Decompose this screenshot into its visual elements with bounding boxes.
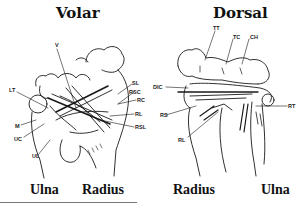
dorsal-ulna-label: Ulna <box>261 182 290 198</box>
label-uc: UC <box>14 137 22 143</box>
volar-title: Volar <box>56 4 100 22</box>
label-rsl: RSL <box>135 125 146 131</box>
label-m: M <box>15 124 20 130</box>
label-dic: DIC <box>153 85 162 91</box>
volar-ulna-label: Ulna <box>30 182 59 198</box>
label-rl-volar: RL <box>135 112 142 118</box>
dorsal-radius-label: Radius <box>173 182 215 198</box>
dorsal-title: Dorsal <box>213 4 268 22</box>
label-rt: RT <box>288 104 295 110</box>
label-sl: SL <box>132 81 139 87</box>
label-rc: RC <box>137 98 145 104</box>
label-tt: TT <box>213 26 220 32</box>
label-rs: RS <box>160 113 168 119</box>
volar-radius-label: Radius <box>82 182 124 198</box>
label-lt: LT <box>9 88 15 94</box>
label-ch: CH <box>250 35 258 41</box>
label-tc: TC <box>233 35 240 41</box>
dorsal-wrist-drawing <box>166 31 287 176</box>
label-rl-dorsal: RL <box>178 138 185 144</box>
label-v: V <box>55 43 59 49</box>
footer-divider <box>0 202 137 203</box>
label-ul: UL <box>32 154 39 160</box>
wrist-ligament-illustration <box>0 0 304 204</box>
label-rsc: RSC <box>129 90 141 96</box>
